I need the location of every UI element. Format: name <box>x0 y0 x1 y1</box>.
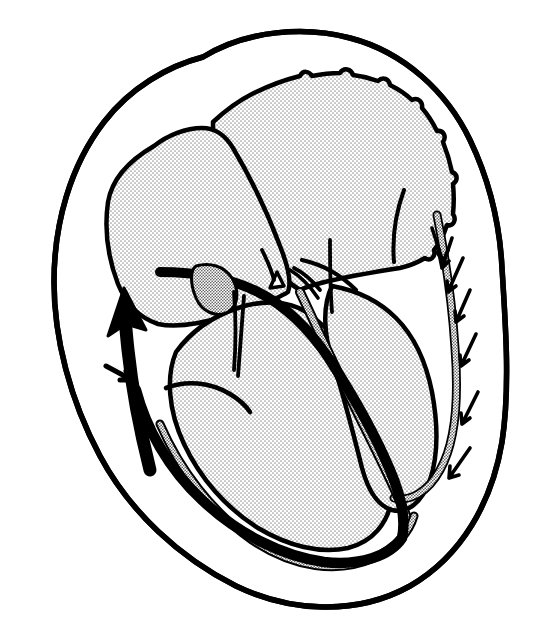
heart-conduction-diagram: Cardiac conduction system — frontal sect… <box>0 0 555 626</box>
heart-diagram-canvas <box>0 0 555 626</box>
